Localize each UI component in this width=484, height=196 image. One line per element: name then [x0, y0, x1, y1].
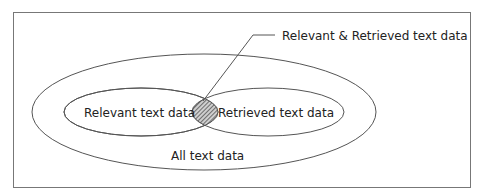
relevant-label: Relevant text data — [84, 106, 195, 120]
leader-line — [203, 35, 275, 101]
venn-diagram: Relevant & Retrieved text data Relevant … — [0, 0, 484, 196]
retrieved-label: Retrieved text data — [218, 106, 334, 120]
all-text-data-label: All text data — [171, 149, 244, 163]
intersection-label: Relevant & Retrieved text data — [282, 29, 468, 43]
